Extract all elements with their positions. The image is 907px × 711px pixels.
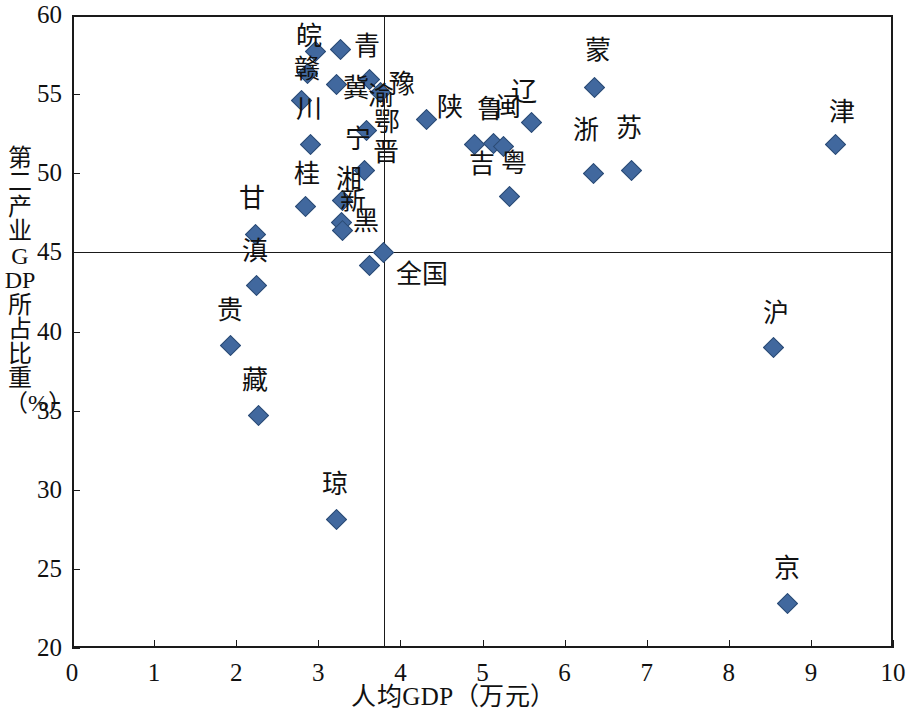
data-point-label: 沪 (763, 301, 789, 327)
data-point-label: 桂 (294, 162, 320, 188)
y-axis-tick-label: 20 (16, 635, 62, 660)
scatter-chart-figure: 012345678910202530354045505560 皖赣川青冀渝豫陕辽… (0, 0, 907, 711)
y-axis-tick (72, 173, 80, 174)
x-axis-tick (400, 640, 401, 648)
y-axis-tick (72, 648, 80, 649)
data-point-label: 浙 (573, 118, 599, 144)
data-point-label: 豫 (389, 72, 415, 98)
y-axis-tick-label: 55 (16, 81, 62, 106)
data-point-label: 闽 (495, 95, 521, 121)
y-axis-tick (72, 411, 80, 412)
x-axis-tick (236, 640, 237, 648)
data-point-label: 甘 (239, 186, 265, 212)
data-point-label: 贵 (217, 298, 243, 324)
x-axis-tick (565, 640, 566, 648)
data-point-label: 滇 (242, 239, 268, 265)
data-point-label: 吉 (469, 152, 495, 178)
x-axis-tick (893, 640, 894, 648)
y-axis-tick (72, 15, 80, 16)
data-point-label: 冀 (343, 76, 369, 102)
data-point-label: 鄂 (370, 108, 396, 134)
x-axis-tick (72, 640, 73, 648)
data-point-label: 津 (829, 100, 855, 126)
y-axis-title: 第二产业GDP所占比重（%） (4, 146, 36, 415)
data-point-label: 粤 (501, 151, 527, 177)
y-axis-tick-label: 60 (16, 2, 62, 27)
y-axis-tick-label: 25 (16, 556, 62, 581)
y-axis-tick (72, 94, 80, 95)
x-axis-tick (647, 640, 648, 648)
x-axis-tick (318, 640, 319, 648)
data-point-label: 赣 (294, 57, 320, 83)
data-point-label: 川 (296, 97, 322, 123)
y-axis-tick (72, 569, 80, 570)
data-point-label: 琼 (322, 472, 348, 498)
data-point-label: 晋 (369, 138, 395, 164)
data-point-label: 藏 (242, 368, 268, 394)
data-point-label: 皖 (296, 24, 322, 50)
y-axis-tick (72, 332, 80, 333)
x-axis-tick (729, 640, 730, 648)
x-axis-title: 人均GDP（万元） (0, 676, 907, 711)
data-point-label: 京 (774, 556, 800, 582)
data-point-label: 青 (354, 34, 380, 60)
y-axis-tick (72, 490, 80, 491)
x-axis-tick (811, 640, 812, 648)
data-point-label: 蒙 (585, 38, 611, 64)
data-point-label: 苏 (616, 116, 642, 142)
x-axis-tick (154, 640, 155, 648)
data-point-label: 陕 (437, 95, 463, 121)
data-point-label: 黑 (353, 209, 379, 235)
y-axis-tick-label: 30 (16, 477, 62, 502)
horizontal-reference-line (72, 252, 893, 253)
chart-annotation: 全国 (396, 262, 448, 288)
x-axis-tick (483, 640, 484, 648)
